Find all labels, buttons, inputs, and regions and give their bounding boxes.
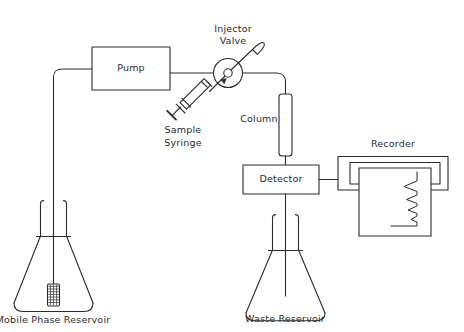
tubing-reservoir-to-pump bbox=[54, 69, 93, 190]
column-tube bbox=[279, 94, 292, 156]
sample-syringe-label-line2: Syringe bbox=[164, 137, 202, 149]
sample-syringe-label-line1: Sample bbox=[165, 124, 202, 136]
tubing-valve-to-column bbox=[243, 73, 286, 94]
injector-valve-label-line2: Valve bbox=[220, 35, 247, 47]
recorder-label: Recorder bbox=[371, 138, 415, 150]
hplc-diagram-canvas: Pump Injector Valve Sample Syringe Colum… bbox=[0, 0, 464, 332]
injector-valve-label-line1: Injector bbox=[214, 23, 252, 35]
mobile-phase-reservoir-label: Mobile Phase Reservoir bbox=[0, 314, 110, 326]
hplc-schematic-svg bbox=[0, 0, 464, 332]
column-label: Column bbox=[240, 113, 278, 125]
waste-reservoir-label: Waste Reservoir bbox=[245, 313, 325, 325]
detector-label: Detector bbox=[260, 173, 303, 185]
inlet-filter-frit bbox=[48, 284, 60, 306]
pump-label: Pump bbox=[117, 62, 145, 74]
